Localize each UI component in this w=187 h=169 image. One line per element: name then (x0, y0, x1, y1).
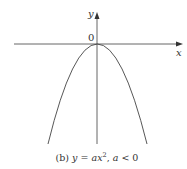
y-axis-label: y (87, 8, 94, 19)
x-axis-arrow-icon (176, 42, 183, 47)
parabola-diagram: y x 0 (b) y = ax2, a < 0 (0, 0, 187, 169)
origin-label: 0 (88, 32, 94, 43)
caption: (b) y = ax2, a < 0 (56, 151, 139, 163)
parabola-curve (48, 44, 147, 144)
x-axis-label: x (176, 47, 182, 58)
y-axis-arrow-icon (95, 12, 100, 19)
